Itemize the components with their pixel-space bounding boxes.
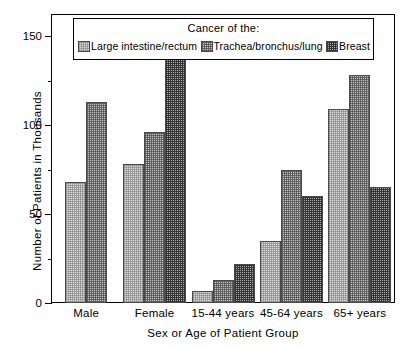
bar — [192, 291, 213, 303]
y-tick-label: 50 — [29, 208, 42, 220]
x-tick-label: 65+ years — [333, 307, 386, 319]
y-tick-major — [45, 303, 52, 304]
x-axis-tick-labels: MaleFemale15-44 years45-64 years65+ year… — [52, 307, 394, 325]
legend-swatch-icon — [326, 41, 338, 52]
x-axis-title: Sex or Age of Patient Group — [52, 327, 394, 339]
bar — [349, 75, 370, 303]
bar — [65, 182, 86, 303]
y-tick-major — [45, 36, 52, 37]
legend-title: Cancer of the: — [74, 22, 373, 34]
x-tick-label: 45-64 years — [260, 307, 323, 319]
y-tick-minor — [48, 259, 52, 260]
legend-entry: Breast — [326, 40, 370, 52]
legend-label: Large intestine/rectum — [91, 40, 197, 52]
legend-label: Trachea/bronchus/lung — [214, 40, 323, 52]
y-tick-label: 150 — [23, 30, 42, 42]
bar — [86, 102, 107, 303]
y-axis-tick-labels: 050100150 — [0, 15, 42, 303]
y-tick-major — [45, 125, 52, 126]
legend: Cancer of the: Large intestine/rectumTra… — [73, 18, 374, 60]
bar — [302, 196, 323, 303]
legend-entries: Large intestine/rectumTrachea/bronchus/l… — [78, 40, 370, 52]
bar — [281, 170, 302, 303]
legend-swatch-icon — [201, 41, 213, 52]
bar-chart: Number of Patients in Thousands 05010015… — [0, 0, 410, 349]
legend-swatch-icon — [78, 41, 90, 52]
bar — [234, 264, 255, 303]
x-tick-label: 15-44 years — [192, 307, 255, 319]
y-tick-minor — [48, 170, 52, 171]
y-tick-minor — [48, 81, 52, 82]
legend-entry: Large intestine/rectum — [78, 40, 197, 52]
bar — [165, 58, 186, 303]
bar — [328, 109, 349, 303]
bar — [144, 132, 165, 303]
y-tick-label: 100 — [23, 119, 42, 131]
bar — [213, 280, 234, 303]
bar — [123, 164, 144, 303]
y-tick-label: 0 — [36, 297, 42, 309]
y-tick-major — [45, 214, 52, 215]
legend-entry: Trachea/bronchus/lung — [201, 40, 323, 52]
x-tick-label: Female — [135, 307, 175, 319]
x-tick-label: Male — [73, 307, 99, 319]
bar — [260, 241, 281, 303]
bar — [370, 187, 391, 303]
legend-label: Breast — [339, 40, 370, 52]
